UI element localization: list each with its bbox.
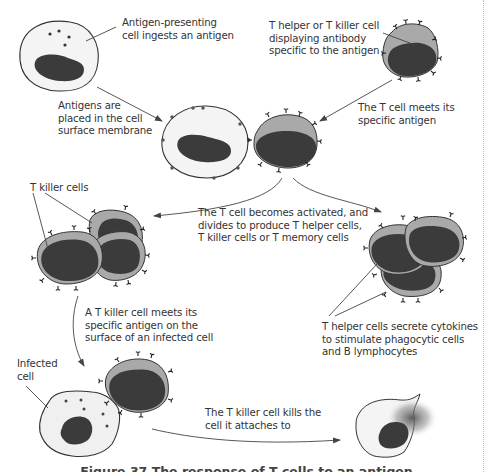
t-helper-cells-cluster — [364, 212, 467, 302]
label-killer-meets-infected: A T killer cell meets its specific antig… — [85, 307, 213, 345]
label-antigens-placed: Antigens are placed in the cell surface … — [58, 100, 152, 138]
label-infected-cell: Infected cell — [17, 358, 57, 383]
label-t-killer-cells: T killer cells — [30, 182, 88, 195]
t-cell-bound — [248, 109, 322, 173]
leader-line — [26, 386, 48, 408]
label-apc-ingests: Antigen-presenting cell ingests an antig… — [122, 17, 234, 42]
dying-cell — [356, 394, 438, 457]
infected-cell — [40, 391, 120, 457]
apc-presenting-cell — [161, 106, 250, 180]
label-helper-secretes: T helper cells secrete cytokines to stim… — [322, 321, 478, 359]
label-t-cell-displaying: T helper or T killer cell displaying ant… — [269, 20, 379, 58]
label-activated-divides: The T cell becomes activated, and divide… — [198, 207, 368, 245]
antigen-dot — [67, 35, 70, 38]
figure-caption: Figure 37 The response of T cells to an … — [0, 462, 493, 472]
apc-ingesting-cell — [20, 21, 98, 91]
antigen-dot — [48, 32, 51, 35]
leader-line — [45, 193, 92, 223]
page-border — [483, 0, 484, 472]
leader-line — [329, 264, 377, 316]
label-killer-kills: The T killer cell kills the cell it atta… — [205, 407, 321, 432]
arrow-killer-meets-infected — [73, 296, 84, 366]
t-cell-response-diagram: Antigen-presenting cell ingests an antig… — [0, 0, 493, 472]
label-t-cell-meets: The T cell meets its specific antigen — [358, 102, 455, 127]
leader-line — [33, 193, 48, 249]
antigen-dot — [57, 29, 60, 32]
t-cell-initial — [382, 20, 442, 82]
antigen-dot — [63, 43, 66, 46]
leader-line — [335, 292, 386, 316]
t-killer-cells-cluster — [32, 205, 150, 290]
